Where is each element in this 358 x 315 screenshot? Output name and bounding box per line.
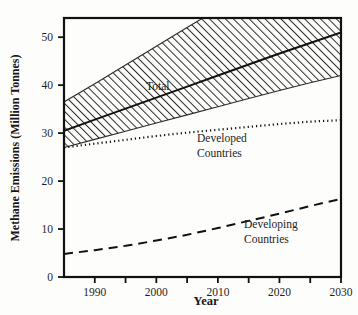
y-tick-label: 50: [42, 31, 54, 43]
y-tick-label: 10: [42, 223, 54, 235]
x-tick-label: 1990: [83, 286, 106, 298]
annotation-developing-line2: Countries: [244, 233, 289, 245]
annotation-developed-line1: Developed: [197, 132, 247, 145]
y-tick-label: 20: [42, 175, 54, 187]
x-tick-label: 2000: [145, 286, 168, 298]
methane-emissions-chart: 01020304050 19902000201020202030 Methane…: [0, 0, 358, 315]
y-tick-label: 30: [42, 127, 54, 139]
chart-canvas: 01020304050 19902000201020202030 Methane…: [0, 0, 358, 315]
annotation-developing-line1: Developing: [244, 218, 298, 231]
y-tick-label: 0: [47, 271, 53, 283]
x-tick-label: 2020: [268, 286, 291, 298]
annotation-developed-line2: Countries: [197, 147, 242, 159]
y-tick-label: 40: [42, 79, 54, 91]
annotation-total: Total: [146, 80, 169, 92]
y-axis-title: Methane Emissions (Million Tonnes): [8, 54, 22, 241]
x-axis-title: Year: [194, 294, 219, 308]
x-tick-label: 2030: [330, 286, 353, 298]
